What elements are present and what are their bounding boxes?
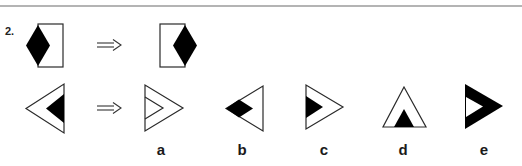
example-result-figure bbox=[160, 24, 197, 67]
test-premise-figure bbox=[26, 84, 64, 133]
option-c-label[interactable]: c bbox=[314, 141, 334, 158]
option-b-figure[interactable] bbox=[226, 86, 263, 131]
option-d-label[interactable]: d bbox=[393, 141, 413, 158]
option-d-figure[interactable] bbox=[383, 87, 426, 127]
implies-arrow-icon bbox=[97, 103, 121, 114]
option-a-label[interactable]: a bbox=[151, 141, 171, 158]
option-c-figure[interactable] bbox=[306, 85, 343, 129]
option-b-label[interactable]: b bbox=[232, 141, 252, 158]
option-e-label[interactable]: e bbox=[474, 141, 494, 158]
implies-arrow-icon bbox=[97, 40, 121, 51]
option-e-figure[interactable] bbox=[465, 84, 503, 129]
example-premise-figure bbox=[26, 24, 63, 67]
option-a-figure[interactable] bbox=[145, 85, 183, 131]
